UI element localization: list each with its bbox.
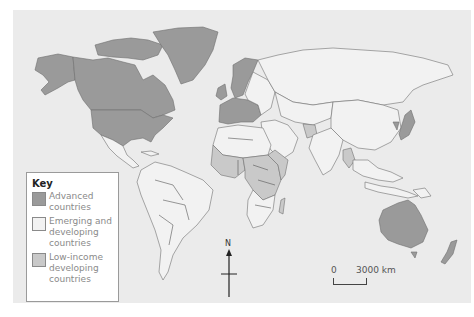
- india: [309, 128, 343, 175]
- key-title: Key: [32, 178, 114, 189]
- key-item-low-income: Low-income developing countries: [32, 252, 114, 285]
- key-label-low-income: Low-income developing countries: [49, 252, 103, 285]
- tasmania: [411, 252, 417, 258]
- north-arrow: N: [219, 239, 239, 297]
- new-zealand: [441, 240, 457, 264]
- caribbean: [141, 151, 159, 156]
- australia: [379, 200, 428, 248]
- madagascar: [279, 198, 285, 214]
- key-label-emerging: Emerging and developing countries: [49, 216, 112, 249]
- emerging-swatch: [32, 217, 46, 231]
- low-income-swatch: [32, 253, 46, 267]
- arctic-islands: [95, 38, 163, 60]
- advanced-swatch: [32, 192, 46, 206]
- canada: [73, 57, 175, 118]
- southeast-asia: [353, 160, 403, 182]
- indonesia: [365, 182, 418, 198]
- key-item-emerging: Emerging and developing countries: [32, 216, 114, 249]
- scale-bar: 0 3000 km: [331, 265, 421, 291]
- greenland: [153, 27, 218, 84]
- japan: [399, 110, 415, 140]
- scale-start: 0: [331, 265, 337, 275]
- north-arrow-icon: [219, 239, 239, 297]
- scale-bar-line: [333, 278, 367, 285]
- north-africa: [213, 125, 271, 158]
- key-item-advanced: Advanced countries: [32, 191, 114, 213]
- key-label-advanced: Advanced countries: [49, 191, 93, 213]
- usa: [91, 110, 173, 146]
- alaska: [35, 54, 75, 95]
- uk: [216, 84, 227, 100]
- south-america: [137, 162, 213, 280]
- scale-end: 3000 km: [356, 265, 396, 275]
- map-key: Key Advanced countries Emerging and deve…: [26, 172, 119, 302]
- russia: [258, 48, 453, 105]
